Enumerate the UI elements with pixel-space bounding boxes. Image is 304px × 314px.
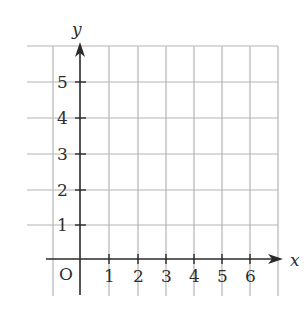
- x-tick-label: 1: [104, 266, 115, 286]
- x-tick-label: 5: [217, 266, 228, 286]
- axes: [46, 42, 283, 295]
- origin-label: O: [59, 264, 73, 284]
- x-tick-label: 2: [133, 266, 144, 286]
- y-tick-label: 2: [57, 180, 68, 200]
- x-tick-label: 4: [189, 266, 200, 286]
- y-tick-label: 1: [57, 215, 68, 235]
- coordinate-grid: 12345612345 y x O: [0, 0, 304, 314]
- axis-ticks: 12345612345: [57, 72, 256, 286]
- x-axis-label: x: [290, 250, 300, 270]
- y-tick-label: 5: [57, 72, 68, 92]
- x-tick-label: 6: [245, 266, 256, 286]
- x-tick-label: 3: [161, 266, 172, 286]
- y-axis-label: y: [71, 19, 82, 39]
- y-tick-label: 4: [57, 108, 68, 128]
- y-tick-label: 3: [57, 144, 68, 164]
- axis-labels: y x O: [59, 19, 300, 284]
